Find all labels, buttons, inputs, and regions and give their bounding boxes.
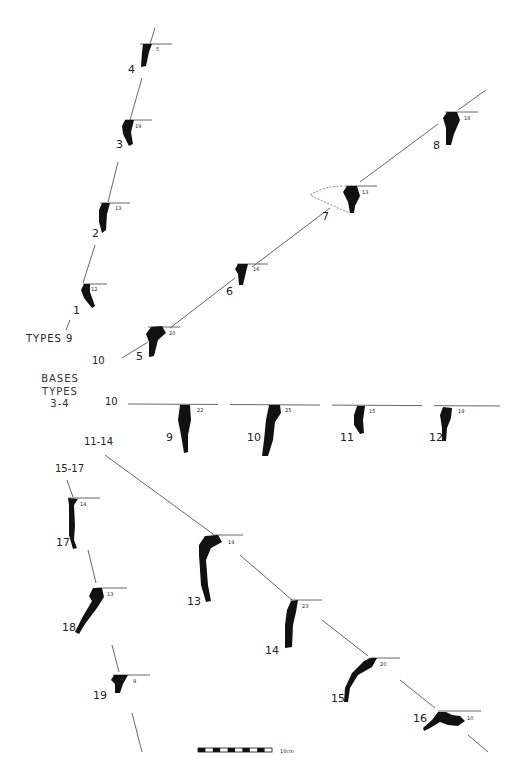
group-label-15-17: 15-17	[55, 464, 84, 474]
group-label-10-top: 10	[92, 356, 105, 366]
profile-label-14: 14	[265, 645, 279, 656]
profile-label-12: 12	[429, 432, 443, 443]
profile-label-18: 18	[62, 622, 76, 633]
heading-bases: BASES	[40, 373, 80, 386]
diameter-label-18: 13	[107, 592, 113, 597]
profile-label-17: 17	[56, 537, 70, 548]
diameter-label-2: 13	[115, 206, 121, 211]
profile-label-2: 2	[92, 228, 99, 239]
heading-types: TYPES	[40, 386, 80, 399]
scale-bar-label: 10cm	[280, 748, 294, 754]
diameter-label-5: 20	[169, 331, 175, 336]
diameter-label-15: 20	[380, 662, 386, 667]
profile-sections	[68, 44, 465, 731]
diameter-label-10: 25	[285, 408, 291, 413]
diameter-label-1: 12	[91, 287, 97, 292]
diameter-label-9: 22	[197, 408, 203, 413]
diameter-label-17: 14	[80, 502, 86, 507]
diameter-label-6: 16	[253, 267, 259, 272]
profile-label-19: 19	[93, 690, 107, 701]
reconstruction-outline	[310, 186, 350, 213]
heading-types-9: TYPES 9	[26, 334, 73, 344]
diameter-label-4: 5	[156, 47, 159, 52]
profile-label-11: 11	[340, 432, 354, 443]
group-label-10-mid: 10	[105, 397, 118, 407]
diameter-label-12: 19	[458, 409, 464, 414]
profile-label-16: 16	[413, 713, 427, 724]
diameter-label-16: 10	[467, 716, 473, 721]
profile-label-1: 1	[73, 305, 80, 316]
diameter-label-19: 9	[133, 679, 136, 684]
profile-label-3: 3	[116, 139, 123, 150]
diameter-label-13: 19	[228, 540, 234, 545]
profile-label-6: 6	[226, 286, 233, 297]
profile-label-13: 13	[187, 596, 201, 607]
heading-bases-types: BASES TYPES 3-4	[40, 373, 80, 411]
diameter-label-7: 13	[362, 190, 368, 195]
diameter-label-14: 23	[302, 604, 308, 609]
heading-range: 3-4	[40, 398, 80, 411]
group-label-11-14: 11-14	[84, 437, 113, 447]
diameter-label-8: 18	[464, 116, 470, 121]
profile-label-10: 10	[247, 432, 261, 443]
diameter-label-3: 19	[135, 124, 141, 129]
profile-label-4: 4	[128, 64, 135, 75]
profile-label-8: 8	[433, 140, 440, 151]
scale-bar-graphic	[198, 748, 272, 752]
profile-label-7: 7	[322, 211, 329, 222]
profile-label-5: 5	[136, 351, 143, 362]
diameter-label-11: 15	[369, 409, 375, 414]
profile-label-15: 15	[331, 693, 345, 704]
profile-label-9: 9	[166, 432, 173, 443]
